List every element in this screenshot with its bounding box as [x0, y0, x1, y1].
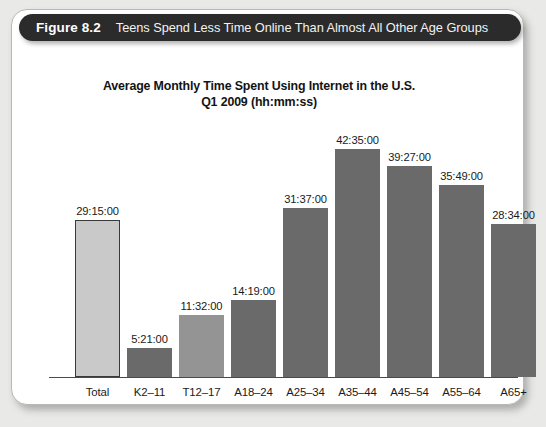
- bar-group: 5:21:00K2–11: [127, 348, 172, 377]
- figure-caption: Teens Spend Less Time Online Than Almost…: [116, 20, 488, 35]
- bar-value-label: 39:27:00: [388, 151, 431, 163]
- bar-group: 39:27:00A45–54: [387, 166, 432, 377]
- chart-bar: [387, 166, 432, 377]
- x-axis-category-label: A65+: [500, 386, 527, 398]
- chart-area: Average Monthly Time Spent Using Interne…: [24, 53, 535, 413]
- chart-bar: [127, 348, 172, 377]
- x-axis-category-label: Total: [86, 386, 110, 398]
- figure-header-bar: Figure 8.2 Teens Spend Less Time Online …: [19, 14, 521, 41]
- bar-value-label: 14:19:00: [232, 285, 275, 297]
- bar-group: 14:19:00A18–24: [231, 300, 276, 377]
- x-axis-category-label: A45–54: [390, 386, 429, 398]
- bar-value-label: 29:15:00: [76, 205, 119, 217]
- x-axis-category-label: T12–17: [182, 386, 220, 398]
- chart-bar: [75, 220, 120, 377]
- chart-bar: [179, 315, 224, 377]
- bar-value-label: 5:21:00: [131, 333, 168, 345]
- bar-value-label: 35:49:00: [440, 170, 483, 182]
- bar-value-label: 31:37:00: [284, 193, 327, 205]
- x-axis-line: [49, 377, 518, 378]
- chart-bar: [439, 185, 484, 377]
- x-axis-category-label: A35–44: [338, 386, 377, 398]
- x-axis-category-label: K2–11: [134, 386, 166, 398]
- x-axis-category-label: A55–64: [442, 386, 481, 398]
- x-axis-category-label: A25–34: [286, 386, 325, 398]
- bar-group: 28:34:00A65+: [491, 224, 536, 377]
- bar-group: 29:15:00Total: [75, 220, 120, 377]
- bar-group: 42:35:00A35–44: [335, 149, 380, 377]
- bar-group: 31:37:00A25–34: [283, 208, 328, 377]
- x-axis-category-label: A18–24: [234, 386, 273, 398]
- chart-bar: [491, 224, 536, 377]
- bar-group: 11:32:00T12–17: [179, 315, 224, 377]
- chart-bar: [231, 300, 276, 377]
- figure-number: Figure 8.2: [36, 20, 101, 35]
- bar-value-label: 11:32:00: [181, 300, 223, 312]
- bar-value-label: 42:35:00: [336, 134, 379, 146]
- figure-card: Average Monthly Time Spent Using Interne…: [11, 9, 524, 405]
- bar-chart-plot: 29:15:00Total5:21:00K2–1111:32:00T12–171…: [24, 53, 535, 413]
- chart-bar: [283, 208, 328, 377]
- bar-group: 35:49:00A55–64: [439, 185, 484, 377]
- chart-bar: [335, 149, 380, 377]
- bar-value-label: 28:34:00: [492, 209, 535, 221]
- figure-page: Average Monthly Time Spent Using Interne…: [0, 0, 546, 427]
